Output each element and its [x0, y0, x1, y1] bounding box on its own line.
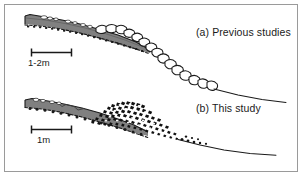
scale-bar-b: [31, 126, 72, 134]
panel-a-label: (a) Previous studies: [196, 26, 291, 38]
panel-b-label: (b) This study: [196, 102, 261, 114]
slope-line-b: [178, 140, 276, 156]
figure-root: (a) Previous studies (b) This study 1-2m…: [0, 0, 304, 178]
slope-line-a: [214, 89, 286, 103]
scale-bar-b-label: 1m: [37, 134, 50, 145]
scale-bar-a: [31, 49, 72, 57]
scale-bar-a-label: 1-2m: [28, 57, 50, 68]
